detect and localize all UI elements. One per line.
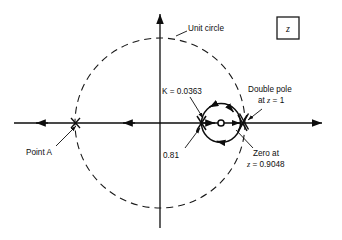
point-a-label: Point A (26, 148, 52, 157)
zero-label-line2: z = 0.9048 (246, 160, 285, 169)
locus-arrow-bottom (217, 141, 223, 142)
domain-box-label: z (285, 23, 290, 34)
figure-background (0, 0, 342, 240)
gain-k-label: K = 0.0363 (162, 87, 202, 96)
zero-marker (218, 120, 224, 126)
zero-label-line1: Zero at (253, 149, 280, 158)
root-locus-figure: Unit circle Point A K = 0.0363 0.81 Doub… (0, 0, 342, 240)
root-locus-svg: Unit circle Point A K = 0.0363 0.81 Doub… (0, 0, 342, 240)
zero-value: = 0.9048 (250, 160, 285, 169)
double-pole-label-line2: at z = 1 (258, 96, 285, 105)
unit-circle-label: Unit circle (188, 24, 224, 33)
break-in-label: 0.81 (163, 151, 179, 160)
double-pole-label-line1: Double pole (248, 85, 292, 94)
double-pole-value: = 1 (270, 96, 284, 105)
double-pole-at-text: at (258, 96, 267, 105)
